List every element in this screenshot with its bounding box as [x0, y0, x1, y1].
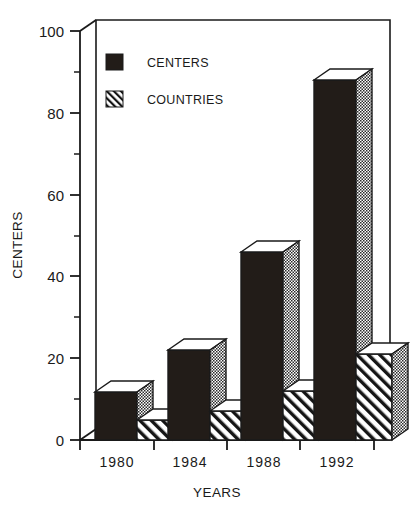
y-tick-label-60: 60 — [47, 187, 64, 204]
chart-container: 100 80 60 40 20 0 CENTERS CENTERS COUNTR… — [0, 0, 412, 508]
y-tick-label-100: 100 — [39, 23, 64, 40]
x-tick-label-1984: 1984 — [172, 454, 207, 470]
x-tick-label-1980: 1980 — [99, 454, 134, 470]
legend-label-countries: COUNTRIES — [147, 93, 223, 107]
bar-chart-svg: 100 80 60 40 20 0 CENTERS CENTERS COUNTR… — [0, 0, 412, 508]
y-tick-label-40: 40 — [47, 268, 64, 285]
x-axis-title: YEARS — [193, 485, 241, 500]
bar-1992-countries — [356, 343, 408, 440]
legend-label-centers: CENTERS — [147, 56, 209, 70]
x-tick-label-1988: 1988 — [246, 454, 281, 470]
y-axis-title: CENTERS — [10, 211, 25, 278]
legend-item-centers: CENTERS — [106, 54, 209, 70]
x-tick-label-1992: 1992 — [319, 454, 354, 470]
legend-swatch-centers — [106, 54, 123, 70]
y-tick-label-20: 20 — [47, 350, 64, 367]
legend-swatch-countries — [106, 91, 123, 107]
y-tick-label-0: 0 — [56, 432, 64, 449]
y-axis: 100 80 60 40 20 0 — [39, 23, 80, 449]
x-axis: 1980 1984 1988 1992 — [80, 440, 374, 470]
legend: CENTERS COUNTRIES — [106, 54, 223, 107]
y-tick-label-80: 80 — [47, 105, 64, 122]
legend-item-countries: COUNTRIES — [106, 91, 223, 107]
